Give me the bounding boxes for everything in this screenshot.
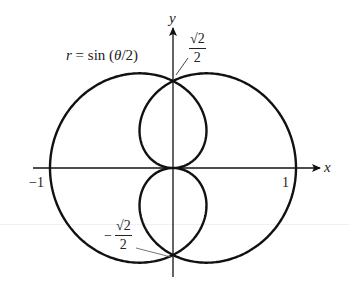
tick-label-pos1: 1 — [282, 176, 289, 190]
curve-eq-end: /2) — [121, 47, 138, 63]
x-axis-label: x — [324, 160, 331, 175]
bottom-intercept-label: √2 2 — [115, 219, 132, 252]
top-denominator: 2 — [189, 49, 206, 65]
bottom-numerator: √2 — [115, 219, 132, 236]
polar-plot — [0, 0, 349, 293]
y-axis-label: y — [169, 11, 176, 26]
top-numerator: √2 — [189, 32, 206, 49]
top-leader-line — [176, 58, 188, 75]
tick-label-neg1: −1 — [29, 176, 44, 190]
bottom-sign: − — [104, 229, 112, 243]
bottom-denominator: 2 — [115, 236, 132, 252]
top-intercept-label: √2 2 — [189, 32, 206, 65]
curve-eq-mid: = sin ( — [72, 47, 114, 63]
curve-label: r = sin (θ/2) — [66, 48, 138, 63]
